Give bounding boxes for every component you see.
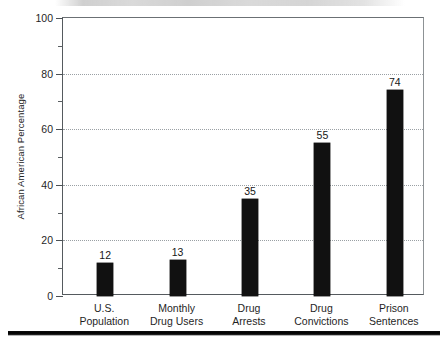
x-axis-label-line: Prison: [369, 302, 419, 315]
gridline: [63, 74, 423, 75]
bar-value-label: 13: [172, 246, 184, 258]
bar: [97, 263, 113, 296]
bar: [314, 143, 330, 296]
x-axis-label-line: Monthly: [150, 302, 203, 315]
y-axis-tick-label: 60: [41, 123, 53, 135]
x-axis-label-line: Drug: [232, 302, 265, 315]
x-axis-label-line: Convictions: [294, 315, 348, 328]
y-axis-major-tick: [56, 18, 63, 19]
bar: [170, 260, 186, 296]
x-axis-category-label: PrisonSentences: [369, 302, 419, 327]
x-axis-label-line: Drug Users: [150, 315, 203, 328]
x-axis-label-line: Arrests: [232, 315, 265, 328]
bar-value-label: 12: [99, 249, 111, 261]
y-axis-minor-tick: [58, 46, 63, 47]
gridline: [63, 185, 423, 186]
y-axis-minor-tick: [58, 157, 63, 158]
bottom-rule-shadow: [8, 335, 440, 336]
y-axis-tick-label: 40: [41, 179, 53, 191]
y-axis-major-tick: [56, 240, 63, 241]
x-axis-label-line: Drug: [294, 302, 348, 315]
bar: [242, 199, 258, 296]
bar-value-label: 74: [389, 76, 401, 88]
x-axis-label-line: Sentences: [369, 315, 419, 328]
bar: [387, 90, 403, 296]
bar-value-label: 35: [244, 185, 256, 197]
y-axis-major-tick: [56, 129, 63, 130]
y-axis-major-tick: [56, 74, 63, 75]
bar-value-label: 55: [317, 129, 329, 141]
y-axis-tick-label: 100: [35, 12, 53, 24]
y-axis-title-text: African American Percentage: [16, 93, 27, 219]
x-axis-category-label: MonthlyDrug Users: [150, 302, 203, 327]
x-axis-label-line: U.S.: [79, 302, 129, 315]
y-axis-major-tick: [56, 296, 63, 297]
y-axis-tick-label: 0: [47, 290, 53, 302]
x-axis-category-label: U.S.Population: [79, 302, 129, 327]
y-axis-major-tick: [56, 185, 63, 186]
y-axis-tick-label: 80: [41, 68, 53, 80]
x-axis-category-label: DrugArrests: [232, 302, 265, 327]
y-axis-minor-tick: [58, 268, 63, 269]
y-axis-minor-tick: [58, 101, 63, 102]
y-axis-tick-label: 20: [41, 234, 53, 246]
bar-chart-figure: African American Percentage 020406080100…: [0, 0, 445, 344]
plot-area: 0204060801001213355574: [62, 17, 424, 295]
x-axis-label-line: Population: [79, 315, 129, 328]
y-axis-title: African American Percentage: [14, 17, 28, 295]
gridline: [63, 129, 423, 130]
x-axis-category-label: DrugConvictions: [294, 302, 348, 327]
y-axis-minor-tick: [58, 213, 63, 214]
